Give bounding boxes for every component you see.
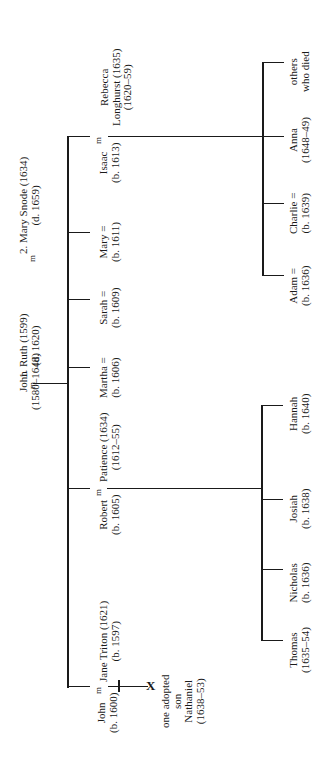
stub-nicholas	[261, 569, 283, 570]
stub-adam	[262, 275, 284, 276]
child-sarah: Sarah = (b. 1609)	[98, 288, 121, 328]
stub-hannah	[261, 405, 283, 406]
root-spouse-1: 1. Ruth (1599) (d. 1620)	[18, 314, 41, 378]
grandchild-nicholas: Nicholas (b. 1636)	[288, 563, 311, 603]
marriage-symbol-icon: m	[93, 489, 105, 496]
grandchild-anna: Anna (1648–49)	[288, 117, 311, 163]
child-isaac: Isaac (b. 1613)	[98, 143, 121, 183]
children-sibling-line	[67, 136, 69, 688]
grandchild-hannah: Hannah (b. 1640)	[288, 394, 311, 434]
stub-isaac	[67, 136, 90, 137]
grandchild-thomas: Thomas (1635–54)	[288, 627, 311, 673]
stub-sarah	[67, 299, 90, 300]
stub-charlie	[262, 203, 284, 204]
spouse-jane-triton: Jane Triton (1621) (b. 1597)	[98, 601, 121, 682]
child-john-jr: John (b. 1600)	[96, 693, 119, 733]
grandchild-charlie: Charlie = (b. 1639)	[288, 193, 311, 234]
child-martha: Martha = (b. 1606)	[98, 357, 121, 398]
robert-marriage-line	[107, 488, 262, 489]
john-jr-marriage-line	[108, 686, 148, 687]
robert-children-line	[261, 405, 263, 641]
adopted-marker-icon: X	[146, 679, 155, 692]
spouse-patience: Patience (1634) (1612–55)	[98, 413, 121, 482]
stub-thomas	[261, 640, 283, 641]
stub-josiah	[261, 499, 283, 500]
grandchild-adam: Adam = (b. 1636)	[288, 266, 311, 306]
grandchild-others: others who died	[288, 51, 311, 92]
stub-john-jr	[67, 686, 90, 687]
isaac-marriage-line	[108, 136, 284, 137]
child-robert: Robert (b. 1605)	[98, 495, 121, 535]
spouse-rebecca: Rebecca Longhurst (1635) (1620–59)	[99, 49, 134, 126]
marriage-symbol-icon: m	[93, 687, 105, 694]
marriage-symbol-icon: m	[27, 382, 39, 389]
isaac-children-line	[262, 62, 264, 276]
marriage-symbol-icon: m	[93, 137, 105, 144]
root-spouse-2: 2. Mary Snode (1634) (d. 1659)	[18, 157, 41, 254]
marriage-symbol-icon: m	[27, 255, 39, 262]
adopted-son-label: one adopted son Nathaniel (1638–53)	[160, 675, 206, 728]
stub-mary	[67, 232, 90, 233]
stub-martha	[67, 367, 90, 368]
grandchild-josiah: Josiah (b. 1638)	[288, 489, 311, 529]
stub-robert	[67, 488, 90, 489]
child-mary: Mary = (b. 1611)	[98, 222, 121, 262]
stub-others	[262, 62, 284, 63]
